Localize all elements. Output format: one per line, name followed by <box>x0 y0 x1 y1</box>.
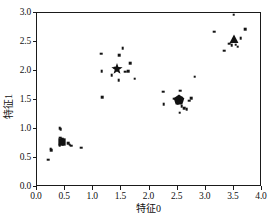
data-point <box>233 13 236 16</box>
data-point <box>129 62 132 65</box>
data-point <box>59 128 62 131</box>
y-axis-tick-label: 2.0 <box>0 65 31 75</box>
x-axis-tick <box>233 186 234 190</box>
data-point <box>100 70 103 73</box>
data-point <box>118 54 121 57</box>
x-axis-tick-label: 1.0 <box>87 191 98 201</box>
x-axis-tick-label: 0.5 <box>58 191 69 201</box>
y-axis-tick-label: 3.0 <box>0 7 31 17</box>
x-axis-tick-label: 4.0 <box>255 191 266 201</box>
x-axis-tick-label: 2.5 <box>171 191 182 201</box>
y-axis-tick-label: 1.0 <box>0 123 31 133</box>
data-point <box>80 146 83 149</box>
data-point <box>244 28 247 31</box>
y-axis-tick-label: 2.5 <box>0 36 31 46</box>
data-point <box>193 76 196 79</box>
x-axis-tick <box>120 186 121 190</box>
x-axis-tick <box>36 186 37 190</box>
cluster-centroid-marker <box>110 62 124 76</box>
data-point <box>179 111 182 114</box>
data-point <box>134 77 137 80</box>
x-axis-tick <box>64 186 65 190</box>
x-axis-tick <box>92 186 93 190</box>
y-axis-tick-label: 1.5 <box>0 94 31 104</box>
data-point <box>188 99 191 102</box>
data-point <box>101 96 104 99</box>
data-point <box>117 79 120 82</box>
data-point <box>179 89 182 92</box>
x-axis-tick-label: 2.0 <box>143 191 154 201</box>
data-point <box>213 30 216 33</box>
x-axis-tick-label: 3.5 <box>227 191 238 201</box>
data-point <box>162 103 165 106</box>
x-axis-tick-label: 3.0 <box>199 191 210 201</box>
x-axis-label: 特征0 <box>36 200 261 215</box>
y-axis-tick <box>33 186 37 187</box>
data-point <box>50 149 53 152</box>
x-axis-tick <box>261 186 262 190</box>
data-point <box>190 97 193 100</box>
scatter-plot-figure: 特征1 特征0 0.00.51.01.52.02.53.03.54.00.00.… <box>0 0 274 219</box>
data-point <box>223 49 226 52</box>
x-axis-tick-label: 0.0 <box>30 191 41 201</box>
y-axis-tick-label: 0.0 <box>0 181 31 191</box>
data-point <box>100 52 103 55</box>
data-point <box>127 70 130 73</box>
cluster-centroid-marker <box>172 93 186 107</box>
x-axis-tick <box>205 186 206 190</box>
x-axis-tick-label: 1.5 <box>115 191 126 201</box>
data-point <box>70 145 73 148</box>
data-point <box>121 47 124 50</box>
data-points-layer <box>37 13 260 185</box>
cluster-centroid-marker <box>55 135 69 149</box>
data-point <box>47 158 50 161</box>
data-point <box>162 91 165 94</box>
x-axis-tick <box>177 186 178 190</box>
plot-area <box>36 12 261 186</box>
y-axis-tick-label: 0.5 <box>0 152 31 162</box>
x-axis-tick <box>149 186 150 190</box>
data-point <box>185 108 188 111</box>
cluster-centroid-marker <box>227 32 241 46</box>
